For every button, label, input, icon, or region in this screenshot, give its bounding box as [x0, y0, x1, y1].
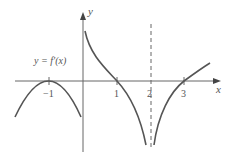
curve-left	[15, 81, 81, 117]
y-axis-label: y	[87, 5, 93, 17]
graph-of-derivative: −1 1 2 3 x y y = f′(x)	[0, 0, 231, 158]
tick-label-3: 3	[181, 88, 186, 99]
curve-right	[154, 63, 210, 145]
tick-label-2: 2	[147, 88, 152, 99]
y-axis-arrow-icon	[80, 12, 86, 20]
x-axis-label: x	[215, 83, 221, 95]
tick-label-neg1: −1	[43, 88, 54, 99]
tick-label-1: 1	[114, 88, 119, 99]
function-label: y = f′(x)	[33, 55, 67, 67]
